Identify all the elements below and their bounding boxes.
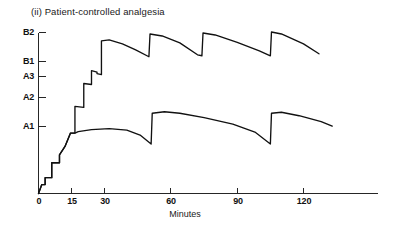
xtick-label-90: 90	[226, 196, 250, 206]
xtick-label-15: 15	[60, 196, 84, 206]
axes	[39, 33, 379, 194]
xtick-label-120: 120	[292, 196, 316, 206]
y-axis-ticks	[39, 33, 46, 127]
xtick-label-60: 60	[159, 196, 183, 206]
x-axis-ticks	[39, 188, 304, 194]
ytick-label-b2: B2	[12, 27, 34, 37]
ytick-label-a1: A1	[12, 121, 34, 131]
xtick-label-0: 0	[27, 196, 51, 206]
ytick-label-a3: A3	[12, 71, 34, 81]
xtick-label-30: 30	[93, 196, 117, 206]
chart-figure: (ii) Patient-controlled analgesia B2 B1 …	[0, 0, 395, 230]
x-axis-title: Minutes	[150, 209, 220, 219]
ytick-label-b1: B1	[12, 56, 34, 66]
series-line-lower-dose	[39, 112, 333, 194]
ytick-label-a2: A2	[12, 92, 34, 102]
